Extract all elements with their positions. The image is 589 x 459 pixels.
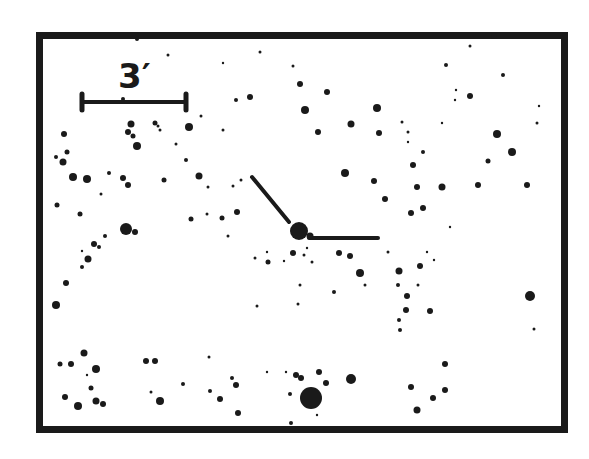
star bbox=[364, 284, 367, 287]
star bbox=[206, 213, 209, 216]
star bbox=[421, 150, 425, 154]
star bbox=[430, 395, 436, 401]
star bbox=[426, 251, 428, 253]
star bbox=[100, 193, 103, 196]
star bbox=[373, 104, 381, 112]
star bbox=[427, 308, 433, 314]
star bbox=[341, 169, 349, 177]
star bbox=[233, 382, 239, 388]
star bbox=[232, 185, 235, 188]
star bbox=[63, 280, 69, 286]
star bbox=[74, 402, 82, 410]
star bbox=[408, 210, 414, 216]
star bbox=[175, 143, 178, 146]
star bbox=[382, 196, 388, 202]
star bbox=[404, 293, 410, 299]
star bbox=[131, 134, 136, 139]
star bbox=[152, 358, 158, 364]
star bbox=[371, 178, 377, 184]
star bbox=[533, 328, 536, 331]
star bbox=[103, 234, 107, 238]
star bbox=[133, 142, 141, 150]
star bbox=[227, 235, 230, 238]
star bbox=[167, 54, 170, 57]
star-field bbox=[0, 0, 589, 459]
star bbox=[417, 284, 420, 287]
star bbox=[449, 226, 451, 228]
star bbox=[289, 421, 293, 425]
star bbox=[125, 129, 131, 135]
star bbox=[207, 186, 210, 189]
star bbox=[55, 203, 60, 208]
star bbox=[156, 397, 164, 405]
star bbox=[444, 63, 448, 67]
star bbox=[159, 129, 162, 132]
star bbox=[536, 122, 539, 125]
star bbox=[408, 384, 414, 390]
star bbox=[54, 155, 58, 159]
star bbox=[200, 115, 203, 118]
star bbox=[347, 253, 353, 259]
star bbox=[68, 361, 74, 367]
star bbox=[150, 391, 153, 394]
star bbox=[92, 365, 100, 373]
star bbox=[455, 89, 457, 91]
star bbox=[396, 268, 403, 275]
star bbox=[184, 158, 188, 162]
star bbox=[97, 245, 101, 249]
star bbox=[189, 217, 194, 222]
star bbox=[442, 387, 448, 393]
star bbox=[525, 291, 535, 301]
star bbox=[185, 123, 193, 131]
star bbox=[410, 162, 416, 168]
star bbox=[439, 184, 446, 191]
star bbox=[196, 173, 203, 180]
star bbox=[107, 171, 111, 175]
star bbox=[256, 305, 259, 308]
star bbox=[235, 410, 241, 416]
star bbox=[301, 106, 309, 114]
star bbox=[62, 394, 68, 400]
star bbox=[143, 358, 149, 364]
star bbox=[58, 362, 63, 367]
star bbox=[311, 261, 314, 264]
star bbox=[89, 386, 94, 391]
star bbox=[397, 318, 401, 322]
star bbox=[266, 371, 268, 373]
star bbox=[524, 182, 530, 188]
star bbox=[348, 121, 355, 128]
star bbox=[336, 250, 342, 256]
star bbox=[403, 307, 409, 313]
star bbox=[93, 398, 100, 405]
star bbox=[356, 269, 364, 277]
star bbox=[283, 260, 285, 262]
star bbox=[288, 392, 292, 396]
star bbox=[433, 259, 435, 261]
star bbox=[401, 121, 404, 124]
star bbox=[162, 178, 167, 183]
star bbox=[298, 375, 304, 381]
star bbox=[493, 130, 501, 138]
star bbox=[208, 356, 211, 359]
target-marker-diagonal bbox=[252, 177, 289, 222]
target-star bbox=[290, 222, 308, 240]
star bbox=[407, 131, 410, 134]
target-marker bbox=[252, 177, 378, 240]
star bbox=[407, 141, 409, 143]
star bbox=[220, 216, 225, 221]
star bbox=[222, 62, 224, 64]
star bbox=[297, 81, 303, 87]
star bbox=[299, 284, 302, 287]
star bbox=[346, 374, 356, 384]
star bbox=[414, 407, 421, 414]
star bbox=[91, 241, 97, 247]
finder-chart: 3′ bbox=[0, 0, 589, 459]
star bbox=[508, 148, 516, 156]
star bbox=[230, 376, 234, 380]
star bbox=[300, 387, 322, 409]
star bbox=[208, 389, 212, 393]
star bbox=[234, 209, 240, 215]
star bbox=[81, 250, 83, 252]
star bbox=[417, 263, 423, 269]
star bbox=[100, 401, 106, 407]
